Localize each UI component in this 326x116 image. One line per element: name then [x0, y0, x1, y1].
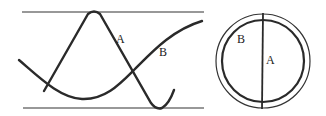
circle-label-b: B: [237, 32, 245, 46]
circle-panel: B A: [216, 13, 310, 109]
circle-label-a: A: [266, 53, 275, 67]
wave-panel: A B: [19, 12, 204, 109]
curve-a-label: A: [116, 32, 125, 46]
vertical-diameter: [262, 13, 263, 109]
curve-b-label: B: [159, 45, 167, 59]
diagram: A B B A: [0, 0, 326, 116]
